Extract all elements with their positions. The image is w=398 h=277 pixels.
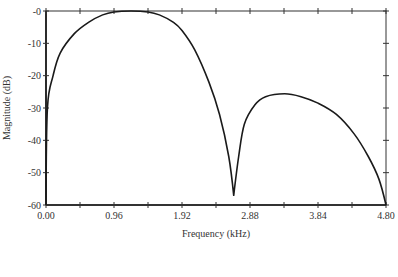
x-axis-ticks: 0.000.961.922.883.844.80 <box>37 8 395 221</box>
y-tick-label: -0 <box>33 6 41 17</box>
x-axis-title: Frequency (kHz) <box>182 228 250 240</box>
x-tick-label: 0.00 <box>37 210 55 221</box>
y-tick-label: -10 <box>28 38 41 49</box>
y-tick-label: -40 <box>28 135 41 146</box>
plot-frame <box>46 11 386 205</box>
x-tick-label: 4.80 <box>377 210 395 221</box>
y-tick-label: -50 <box>28 167 41 178</box>
magnitude-curve <box>46 11 386 205</box>
x-tick-label: 1.92 <box>173 210 191 221</box>
y-axis-title: Magnitude (dB) <box>1 76 13 140</box>
x-tick-label: 2.88 <box>241 210 259 221</box>
plot-border <box>46 11 386 205</box>
y-tick-label: -30 <box>28 103 41 114</box>
y-axis-ticks: -0-10-20-30-40-50-60 <box>28 6 389 211</box>
x-tick-label: 3.84 <box>309 210 327 221</box>
y-tick-label: -60 <box>28 200 41 211</box>
x-tick-label: 0.96 <box>105 210 123 221</box>
magnitude-response-chart: 0.000.961.922.883.844.80 -0-10-20-30-40-… <box>0 0 398 277</box>
y-tick-label: -20 <box>28 70 41 81</box>
